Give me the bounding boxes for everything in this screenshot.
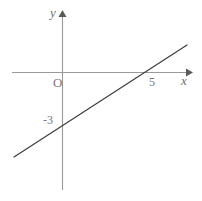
y-axis-label: y [50,6,56,19]
plot-canvas [0,0,202,201]
x-axis-label: x [181,74,187,87]
x-axis-arrow-icon [186,69,193,77]
linear-function-line [14,45,187,157]
coordinate-plane-figure: y x O 5 -3 [0,0,202,201]
y-axis-arrow-icon [59,10,67,17]
origin-label: O [53,76,62,89]
y-tick-label-minus-3: -3 [43,114,53,126]
x-tick-label-5: 5 [149,76,155,88]
